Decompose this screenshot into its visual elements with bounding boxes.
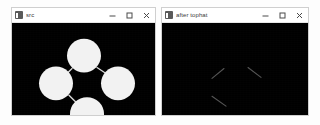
image-canvas-after-tophat[interactable] [162,23,308,115]
minimize-button-after-tophat[interactable] [257,8,274,22]
window-title-after-tophat: after tophat [176,11,257,19]
minimize-icon [108,11,117,20]
window-src[interactable]: src [11,7,156,116]
maximize-icon [125,11,134,20]
window-controls-src [104,8,155,22]
titlebar-src[interactable]: src [12,8,155,23]
right-circle [101,67,135,101]
src-image-graphic [12,23,155,115]
image-canvas-src[interactable] [12,23,155,115]
maximize-button-src[interactable] [121,8,138,22]
after-tophat-image-graphic [162,23,308,115]
tophat-canvas-bg [162,23,308,115]
close-button-src[interactable] [138,8,155,22]
close-icon [142,11,151,20]
opencv-window-icon [165,11,173,19]
window-controls-after-tophat [257,8,308,22]
opencv-window-icon [15,11,23,19]
titlebar-after-tophat[interactable]: after tophat [162,8,308,23]
maximize-button-after-tophat[interactable] [274,8,291,22]
close-button-after-tophat[interactable] [291,8,308,22]
maximize-icon [278,11,287,20]
left-circle [39,67,73,101]
top-circle [67,39,101,73]
desktop-background: src [0,0,320,125]
minimize-icon [261,11,270,20]
close-icon [295,11,304,20]
minimize-button-src[interactable] [104,8,121,22]
window-after-tophat[interactable]: after tophat [161,7,309,116]
window-title-src: src [26,11,104,19]
